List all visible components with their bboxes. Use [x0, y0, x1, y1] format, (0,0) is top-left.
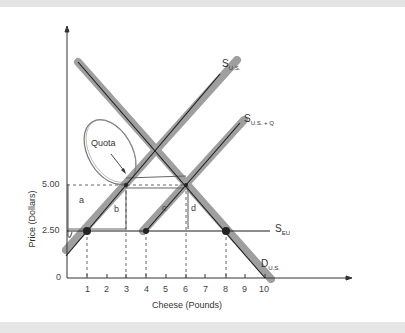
label-supply-us-quota: SU.S. + Q — [244, 113, 274, 126]
x-tick: 10 — [259, 284, 269, 294]
x-axis-ticks — [87, 274, 265, 278]
x-tick: 6 — [183, 284, 188, 294]
label-demand-us: DU.S. — [261, 258, 280, 271]
area-d-label: d — [191, 203, 196, 213]
demand-us-line — [78, 62, 265, 278]
x-tick: 3 — [124, 284, 129, 294]
x-tick: 1 — [85, 284, 90, 294]
x-tick: 9 — [242, 284, 247, 294]
x-axis-label: Cheese (Pounds) — [152, 300, 222, 310]
x-tick: 4 — [144, 284, 149, 294]
area-b-label: b — [114, 204, 119, 214]
y-tick-2-5: 2.50 — [42, 225, 60, 235]
x-tick: 8 — [223, 284, 228, 294]
y-origin: 0 — [56, 272, 61, 282]
highlight-strokes — [66, 60, 271, 279]
axes — [65, 26, 352, 280]
area-a-label: a — [79, 195, 84, 205]
label-supply-eu: SEU — [275, 223, 290, 236]
label-supply-us: SU.S. — [222, 58, 240, 71]
x-tick: 5 — [163, 284, 168, 294]
quota-label: Quota — [91, 138, 116, 148]
area-c-label: c — [162, 203, 167, 213]
y-axis-label: Price (Dollars) — [27, 179, 37, 259]
y-tick-5: 5.00 — [42, 179, 60, 189]
x-tick: 7 — [203, 284, 208, 294]
x-tick: 2 — [104, 284, 109, 294]
